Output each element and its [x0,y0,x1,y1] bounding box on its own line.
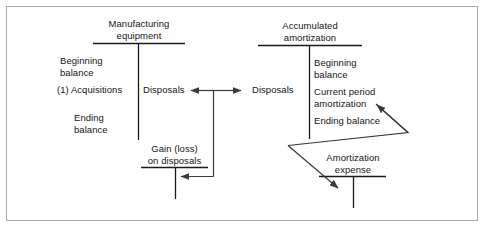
accum-amortization-title-line1: Accumulated [258,20,362,32]
accum-current-period-label: Current period [314,86,375,98]
mfg-beginning-balance-label: balance [60,67,94,79]
gain-loss-title-line2: on disposals [133,155,216,167]
diagram-canvas: Manufacturing equipment Beginning balanc… [0,0,485,231]
t-account-amortization-expense [319,177,386,209]
t-account-gain-loss-on-disposals [141,168,208,200]
accum-beginning-balance-label: balance [314,69,348,81]
mfg-disposals-label: Disposals [143,84,185,96]
mfg-ending-label: Ending [74,112,104,124]
mfg-equipment-title-line2: equipment [93,30,185,42]
mfg-acquisitions-label: (1) Acquisitions [57,84,122,96]
accum-amortization-label: amortization [314,98,366,110]
accum-ending-balance-label: Ending balance [314,115,380,127]
accum-amortization-title-line2: amortization [258,32,362,44]
amortization-expense-title-line2: expense [313,164,393,176]
accum-beginning-label: Beginning [314,57,357,69]
amortization-expense-title-line1: Amortization [313,152,393,164]
mfg-beginning-label: Beginning [60,55,103,67]
diagram-lines-layer [0,0,485,231]
gain-loss-title-line1: Gain (loss) [133,143,216,155]
accum-disposals-label: Disposals [252,84,294,96]
mfg-ending-balance-label: balance [74,124,108,136]
mfg-equipment-title-line1: Manufacturing [93,18,185,30]
